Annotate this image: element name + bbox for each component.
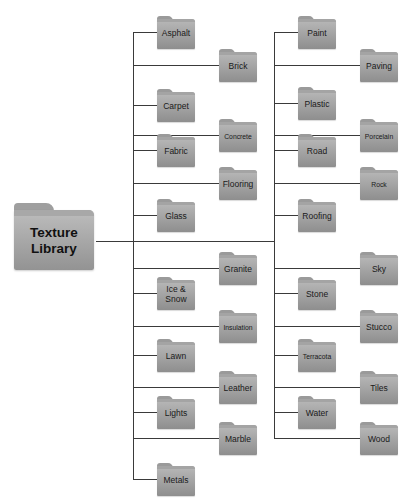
root-folder-label: TextureLibrary bbox=[14, 211, 94, 270]
folder-label: Roofing bbox=[298, 202, 336, 232]
branch-line bbox=[274, 387, 360, 388]
folder-rock[interactable]: Rock bbox=[360, 167, 398, 200]
folder-porcelain[interactable]: Porcelain bbox=[360, 119, 398, 152]
branch-line bbox=[133, 215, 157, 216]
root-label-line1: Texture bbox=[30, 225, 78, 240]
folder-label: Insulation bbox=[219, 313, 257, 343]
branch-line bbox=[133, 105, 157, 106]
folder-leather[interactable]: Leather bbox=[219, 371, 257, 404]
branch-line bbox=[274, 438, 360, 439]
folder-label: Granite bbox=[219, 255, 257, 285]
branch-line bbox=[274, 150, 298, 151]
folder-asphalt[interactable]: Asphalt bbox=[157, 16, 195, 49]
folder-carpet[interactable]: Carpet bbox=[157, 89, 195, 122]
folder-fabric[interactable]: Fabric bbox=[157, 134, 195, 167]
branch-line bbox=[133, 438, 219, 439]
branch-line bbox=[133, 32, 157, 33]
folder-label: Fabric bbox=[157, 137, 195, 167]
folder-granite[interactable]: Granite bbox=[219, 252, 257, 285]
folder-label: Stone bbox=[298, 280, 336, 310]
branch-line bbox=[274, 183, 360, 184]
folder-label: Water bbox=[298, 399, 336, 429]
folder-glass[interactable]: Glass bbox=[157, 199, 195, 232]
right-trunk-line bbox=[274, 32, 275, 439]
folder-paving[interactable]: Paving bbox=[360, 49, 398, 82]
folder-label: Metals bbox=[157, 466, 195, 496]
folder-stone[interactable]: Stone bbox=[298, 277, 336, 310]
branch-line bbox=[274, 215, 298, 216]
folder-label: Rock bbox=[360, 170, 398, 200]
branch-line bbox=[274, 355, 298, 356]
branch-line bbox=[133, 268, 219, 269]
branch-line bbox=[274, 326, 360, 327]
folder-label: Road bbox=[298, 137, 336, 167]
branch-line bbox=[274, 268, 360, 269]
folder-label: Asphalt bbox=[157, 19, 195, 49]
folder-ice-snow[interactable]: Ice &Snow bbox=[157, 277, 195, 310]
folder-terracota[interactable]: Terracota bbox=[298, 339, 336, 372]
folder-metals[interactable]: Metals bbox=[157, 463, 195, 496]
folder-insulation[interactable]: Insulation bbox=[219, 310, 257, 343]
branch-line bbox=[274, 65, 360, 66]
folder-label: Sky bbox=[360, 255, 398, 285]
folder-tiles[interactable]: Tiles bbox=[360, 371, 398, 404]
folder-flooring[interactable]: Flooring bbox=[219, 167, 257, 200]
folder-label: Carpet bbox=[157, 92, 195, 122]
folder-label: Concrete bbox=[219, 122, 257, 152]
root-folder-texture-library[interactable]: TextureLibrary bbox=[14, 203, 94, 270]
folder-label: Glass bbox=[157, 202, 195, 232]
folder-road[interactable]: Road bbox=[298, 134, 336, 167]
branch-line bbox=[133, 387, 219, 388]
folder-label: Paint bbox=[298, 19, 336, 49]
branch-line bbox=[274, 103, 298, 104]
folder-label: Leather bbox=[219, 374, 257, 404]
branch-line bbox=[133, 65, 219, 66]
branch-line bbox=[133, 355, 157, 356]
branch-line bbox=[133, 293, 157, 294]
branch-line bbox=[274, 32, 298, 33]
branch-line bbox=[274, 293, 298, 294]
folder-label: Brick bbox=[219, 52, 257, 82]
branch-line bbox=[133, 479, 157, 480]
folder-label: Porcelain bbox=[360, 122, 398, 152]
folder-stucco[interactable]: Stucco bbox=[360, 310, 398, 343]
folder-label: Wood bbox=[360, 425, 398, 455]
folder-water[interactable]: Water bbox=[298, 396, 336, 429]
folder-label: Ice &Snow bbox=[157, 280, 195, 310]
folder-plastic[interactable]: Plastic bbox=[298, 87, 336, 120]
branch-line bbox=[133, 183, 219, 184]
folder-lawn[interactable]: Lawn bbox=[157, 339, 195, 372]
folder-label: Lawn bbox=[157, 342, 195, 372]
folder-brick[interactable]: Brick bbox=[219, 49, 257, 82]
branch-line bbox=[133, 412, 157, 413]
branch-line bbox=[133, 326, 219, 327]
main-connector-line bbox=[96, 241, 275, 242]
folder-label: Paving bbox=[360, 52, 398, 82]
root-label-line2: Library bbox=[31, 241, 77, 256]
folder-label: Terracota bbox=[298, 342, 336, 372]
folder-label: Stucco bbox=[360, 313, 398, 343]
folder-marble[interactable]: Marble bbox=[219, 422, 257, 455]
folder-paint[interactable]: Paint bbox=[298, 16, 336, 49]
folder-lights[interactable]: Lights bbox=[157, 396, 195, 429]
folder-sky[interactable]: Sky bbox=[360, 252, 398, 285]
folder-label: Plastic bbox=[298, 90, 336, 120]
folder-label: Tiles bbox=[360, 374, 398, 404]
folder-label: Marble bbox=[219, 425, 257, 455]
folder-label: Flooring bbox=[219, 170, 257, 200]
folder-concrete[interactable]: Concrete bbox=[219, 119, 257, 152]
folder-wood[interactable]: Wood bbox=[360, 422, 398, 455]
folder-roofing[interactable]: Roofing bbox=[298, 199, 336, 232]
branch-line bbox=[133, 150, 157, 151]
branch-line bbox=[274, 412, 298, 413]
folder-label: Lights bbox=[157, 399, 195, 429]
